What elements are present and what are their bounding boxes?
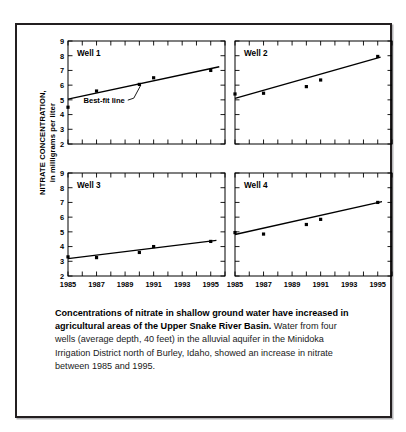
x-tick-label: 1995 <box>370 280 386 289</box>
data-point <box>262 92 265 95</box>
wells-scatter-charts: 23456789Well 1Well 223456789198519871989… <box>17 25 394 297</box>
x-tick-label: 1987 <box>255 280 271 289</box>
y-tick-label: 2 <box>60 140 64 149</box>
figure-frame: NITRATE CONCENTRATION, in milligrams per… <box>15 23 392 418</box>
data-point <box>138 251 141 254</box>
y-tick-label: 7 <box>60 66 64 75</box>
y-axis-label-line1: NITRATE CONCENTRATION, <box>38 90 47 195</box>
x-tick-label: 1985 <box>227 280 243 289</box>
x-tick-label: 1991 <box>312 280 328 289</box>
data-point <box>209 240 212 243</box>
data-point <box>66 106 69 109</box>
data-point <box>95 89 98 92</box>
data-point <box>152 245 155 248</box>
figure-caption: Concentrations of nitrate in shallow gro… <box>55 307 359 373</box>
data-point <box>262 232 265 235</box>
data-point <box>152 76 155 79</box>
panel-title: Well 1 <box>77 49 101 58</box>
data-point <box>209 69 212 72</box>
panel-title: Well 4 <box>244 181 268 190</box>
data-point <box>66 255 69 258</box>
data-point <box>305 85 308 88</box>
data-point <box>376 55 379 58</box>
x-tick-label: 1991 <box>145 280 161 289</box>
x-tick-label: 1989 <box>117 280 133 289</box>
y-tick-label: 9 <box>60 169 64 178</box>
panel-title: Well 3 <box>77 181 101 190</box>
x-tick-label: 1993 <box>174 280 190 289</box>
panel-well-2: Well 2 <box>233 41 392 144</box>
data-point <box>319 78 322 81</box>
data-point <box>233 231 236 234</box>
y-tick-label: 4 <box>60 242 65 251</box>
y-tick-label: 5 <box>60 228 64 237</box>
panel-well-3: 23456789198519871989199119931995Well 3 <box>60 169 225 289</box>
y-tick-label: 6 <box>60 213 64 222</box>
data-point <box>376 201 379 204</box>
panel-well-4: 198519871989199119931995Well 4 <box>227 173 392 289</box>
x-tick-label: 1993 <box>341 280 357 289</box>
best-fit-line-annotation: Best-fit line <box>83 85 140 105</box>
x-tick-label: 1989 <box>284 280 300 289</box>
x-tick-label: 1995 <box>203 280 219 289</box>
y-axis-label: NITRATE CONCENTRATION, in milligrams per… <box>38 68 57 218</box>
y-axis-label-line2: in milligrams per liter <box>48 103 57 182</box>
y-tick-label: 6 <box>60 81 64 90</box>
y-tick-label: 8 <box>60 52 64 61</box>
best-fit-line <box>235 57 381 98</box>
data-point <box>305 223 308 226</box>
best-fit-line <box>68 240 216 258</box>
y-tick-label: 8 <box>60 184 64 193</box>
y-tick-label: 3 <box>60 257 64 266</box>
y-tick-label: 7 <box>60 198 64 207</box>
data-point <box>95 256 98 259</box>
data-point <box>233 92 236 95</box>
best-fit-line <box>235 202 382 235</box>
best-fit-line <box>68 67 219 99</box>
x-tick-label: 1985 <box>60 280 76 289</box>
plot-area: NITRATE CONCENTRATION, in milligrams per… <box>17 25 390 297</box>
y-tick-label: 9 <box>60 37 64 46</box>
y-tick-label: 4 <box>60 110 65 119</box>
data-point <box>319 218 322 221</box>
annotation-label: Best-fit line <box>83 96 124 105</box>
panel-well-1: 23456789Well 1 <box>60 37 225 149</box>
x-tick-label: 1987 <box>88 280 104 289</box>
y-tick-label: 5 <box>60 96 64 105</box>
y-tick-label: 3 <box>60 125 64 134</box>
annotation-leader-line <box>128 85 141 100</box>
panel-title: Well 2 <box>244 49 268 58</box>
